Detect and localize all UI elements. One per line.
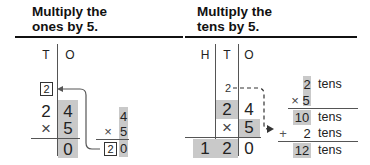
right-side-r4-unit: tens — [318, 126, 342, 141]
right-result-tens: 2 — [217, 139, 237, 159]
right-side-r2-op: × — [290, 93, 300, 108]
right-multiplier: 5 — [239, 118, 259, 138]
right-side-r4-op: + — [278, 126, 288, 141]
right-answer-line — [185, 137, 261, 138]
right-col-H: H — [196, 48, 214, 62]
right-col-T: T — [218, 48, 236, 62]
right-rule — [185, 36, 357, 38]
left-side-top: 4 — [119, 109, 128, 124]
right-side-r5-num: 12 — [292, 143, 312, 158]
left-rule — [15, 36, 183, 38]
left-col-T: T — [36, 48, 56, 62]
right-side-r3-num: 10 — [292, 110, 312, 125]
right-heading-line1: Multiply the — [197, 5, 272, 18]
left-heading-line2: ones by 5. — [32, 20, 98, 33]
right-side-line1 — [288, 108, 358, 109]
right-side-line2 — [278, 141, 358, 142]
right-result-ones: 0 — [239, 139, 259, 159]
left-op: × — [36, 119, 56, 139]
right-carry: 2 — [225, 82, 231, 94]
left-col-O: O — [60, 48, 80, 62]
right-op: × — [217, 118, 237, 138]
right-side-r1-num: 2 — [303, 77, 311, 92]
right-top-ones: 4 — [239, 100, 259, 120]
left-side-line — [96, 139, 129, 140]
left-side-mult: 5 — [119, 124, 128, 139]
left-multiplier: 5 — [58, 119, 78, 139]
right-side-r5-unit: tens — [318, 143, 342, 158]
left-side-carry-box: 2 — [104, 142, 117, 156]
left-answer-line — [31, 138, 80, 139]
right-heading-line2: tens by 5. — [197, 20, 259, 33]
left-heading-line1: Multiply the — [32, 5, 107, 18]
left-result-ones: 0 — [58, 140, 78, 160]
right-side-r4-num: 2 — [303, 126, 311, 141]
right-top-tens: 2 — [217, 100, 237, 120]
right-side-r3-unit: tens — [318, 110, 342, 125]
right-col-O: O — [240, 48, 258, 62]
right-result-hundreds: 1 — [195, 139, 215, 159]
right-side-r1-unit: tens — [318, 77, 342, 92]
left-side-ones: 0 — [119, 141, 128, 156]
right-side-r2-num: 5 — [301, 93, 311, 108]
left-carry-box: 2 — [40, 82, 53, 96]
left-side-op: × — [102, 124, 114, 139]
